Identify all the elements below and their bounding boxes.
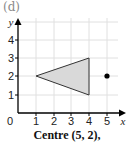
y-tick-1: 1 [8,89,14,101]
coordinate-grid: 0 1 2 3 4 5 x 1 2 3 4 y [0,0,134,128]
x-tick-2: 2 [51,115,57,127]
origin-label: 0 [7,115,13,127]
caption: Centre (5, 2), [0,128,134,143]
y-tick-3: 3 [8,52,14,64]
triangle-shape [36,58,89,95]
y-axis-label: y [8,16,14,28]
centre-point [104,73,109,78]
x-tick-5: 5 [104,115,110,127]
x-tick-3: 3 [68,115,74,127]
x-axis-label: x [120,115,126,127]
x-tick-4: 4 [86,115,92,127]
y-tick-4: 4 [8,34,14,46]
x-tick-1: 1 [33,115,39,127]
y-tick-2: 2 [8,70,14,82]
